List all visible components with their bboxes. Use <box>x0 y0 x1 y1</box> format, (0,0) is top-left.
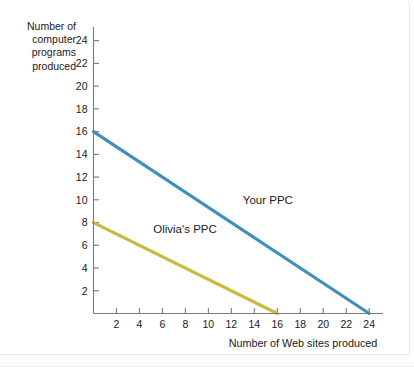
plot-area: 24681012141618202224 2468101214161820222… <box>0 0 414 375</box>
series-lines <box>94 132 370 314</box>
y-tick-label-6: 6 <box>82 239 88 251</box>
y-tick-label-4: 4 <box>82 262 88 274</box>
x-tick-label-8: 8 <box>182 318 188 330</box>
y-tick-label-22: 22 <box>76 57 88 69</box>
x-tick-label-6: 6 <box>160 318 166 330</box>
x-tick-label-2: 2 <box>114 318 120 330</box>
y-tick-label-24: 24 <box>76 34 88 46</box>
ppc-chart-figure: Number of computer programs produced Num… <box>0 0 414 375</box>
y-tick-label-14: 14 <box>76 148 88 160</box>
y-tick-label-2: 2 <box>82 285 88 297</box>
y-tick-label-10: 10 <box>76 194 88 206</box>
series-annotations: Your PPCOlivia's PPC <box>153 194 293 234</box>
series-annotation-your-ppc: Your PPC <box>243 194 293 206</box>
y-tick-label-18: 18 <box>76 103 88 115</box>
series-annotation-olivia-s-ppc: Olivia's PPC <box>153 223 217 235</box>
y-tick-label-20: 20 <box>76 80 88 92</box>
x-tick-label-12: 12 <box>226 318 238 330</box>
x-tick-label-18: 18 <box>294 318 306 330</box>
y-tick-label-8: 8 <box>82 216 88 228</box>
x-axis-ticks: 24681012141618202224 <box>114 308 376 330</box>
x-tick-label-24: 24 <box>363 318 375 330</box>
y-tick-label-16: 16 <box>76 125 88 137</box>
x-tick-label-10: 10 <box>203 318 215 330</box>
series-line-your-ppc <box>94 132 370 314</box>
x-tick-label-20: 20 <box>317 318 329 330</box>
y-tick-label-12: 12 <box>76 171 88 183</box>
x-tick-label-14: 14 <box>248 318 260 330</box>
x-tick-label-22: 22 <box>340 318 352 330</box>
x-tick-label-4: 4 <box>137 318 143 330</box>
x-tick-label-16: 16 <box>271 318 283 330</box>
y-axis-ticks: 24681012141618202224 <box>76 34 99 296</box>
